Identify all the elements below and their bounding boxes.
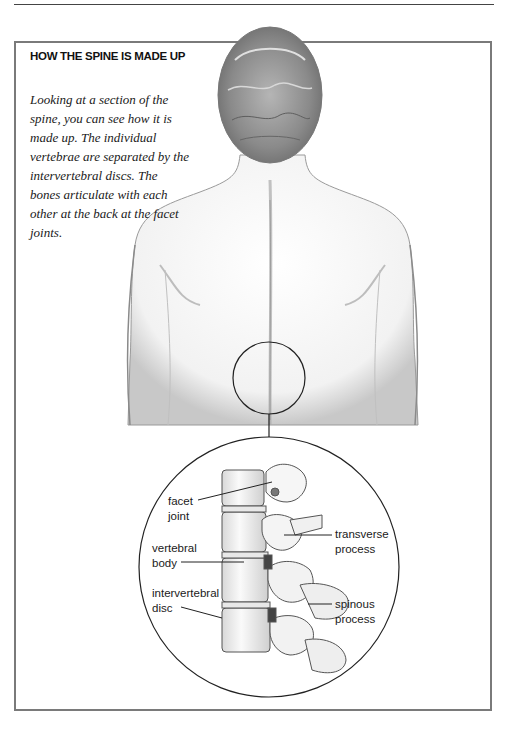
label-line: body <box>152 556 197 571</box>
label-line: spinous <box>335 597 375 612</box>
label-line: process <box>335 542 389 557</box>
label-transverse-process: transverse process <box>335 527 389 557</box>
label-line: vertebral <box>152 541 197 556</box>
head-hair-drawing <box>218 27 322 163</box>
label-line: facet <box>168 494 193 509</box>
label-facet-joint: facet joint <box>168 494 193 524</box>
label-line: joint <box>168 509 193 524</box>
label-line: process <box>335 612 375 627</box>
section-body-text: Looking at a section of the spine, you c… <box>30 90 190 242</box>
label-line: transverse <box>335 527 389 542</box>
label-line: disc <box>152 601 219 616</box>
label-spinous-process: spinous process <box>335 597 375 627</box>
label-vertebral-body: vertebral body <box>152 541 197 571</box>
label-line: intervertebral <box>152 586 219 601</box>
label-intervertebral-disc: intervertebral disc <box>152 586 219 616</box>
section-heading: HOW THE SPINE IS MADE UP <box>30 50 185 62</box>
